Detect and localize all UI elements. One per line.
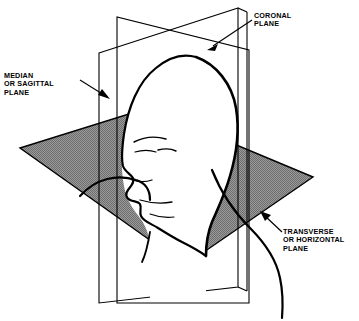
coronal-arrowhead (207, 44, 218, 51)
coronal-plane-label: CORONAL PLANE (254, 12, 291, 29)
coronal-plane-edge-top (238, 8, 247, 12)
transverse-horizontal-plane-label: TRANSVERSE OR HORIZONTAL PLANE (283, 228, 344, 253)
head-silhouette-fill (122, 56, 238, 300)
head-profile (122, 56, 238, 300)
median-sagittal-plane-label: MEDIAN OR SAGITTAL PLANE (4, 72, 54, 97)
anatomical-planes-figure: CORONAL PLANE MEDIAN OR SAGITTAL PLANE T… (0, 0, 359, 321)
coronal-label-line-2: PLANE (254, 20, 291, 28)
planes-illustration (0, 0, 359, 321)
median-arrowhead (98, 89, 110, 99)
transverse-label-line-3: PLANE (283, 245, 344, 253)
median-label-line-3: PLANE (4, 89, 54, 97)
coronal-plane-edge-bottom (238, 287, 247, 291)
coronal-leader-line (213, 20, 252, 46)
